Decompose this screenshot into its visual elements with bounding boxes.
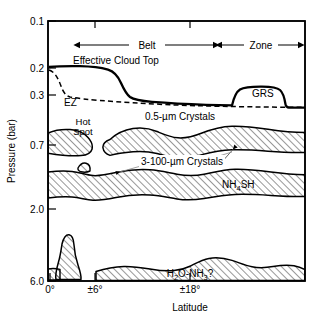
x-axis-title: Latitude	[172, 302, 208, 313]
upper-crystals-label: 0.5-µm Crystals	[145, 111, 215, 122]
nh4sh-label-pre: NH	[222, 179, 236, 190]
cloud-structure-chart: 0.1 0.2 0.3 0.7 2.0 6.0 Pressure (bar) 0…	[0, 0, 329, 324]
water-label-mid: O-NH	[178, 268, 204, 279]
hot-spot-label-line2: Spot	[73, 126, 93, 137]
water-label-h: H	[167, 268, 174, 279]
figure-container: 0.1 0.2 0.3 0.7 2.0 6.0 Pressure (bar) 0…	[0, 0, 329, 324]
x-tick-label-0: 0°	[45, 284, 55, 295]
y-tick-label-4: 2.0	[30, 204, 44, 215]
mid-crystals-label: 3-100-µm Crystals	[141, 156, 223, 167]
x-tick-label-1: ±6°	[87, 284, 102, 295]
y-axis-title: Pressure (bar)	[6, 119, 17, 183]
y-tick-label-1: 0.2	[30, 63, 44, 74]
x-tick-label-2: ±18°	[180, 284, 201, 295]
zone-label: Zone	[250, 40, 273, 51]
ez-label: EZ	[64, 97, 77, 108]
nh4sh-label-post: SH	[241, 179, 255, 190]
effective-cloud-top-label: Effective Cloud Top	[73, 55, 159, 66]
y-tick-label-5: 6.0	[30, 276, 44, 287]
belt-label: Belt	[138, 40, 155, 51]
nh4sh-cloud-deck	[48, 169, 305, 200]
y-tick-label-0: 0.1	[30, 16, 44, 27]
y-tick-label-3: 0.7	[30, 140, 44, 151]
y-tick-label-2: 0.3	[30, 90, 44, 101]
grs-label: GRS	[252, 88, 274, 99]
deep-cloud-left-base	[48, 269, 60, 280]
water-label-q: ?	[208, 268, 214, 279]
